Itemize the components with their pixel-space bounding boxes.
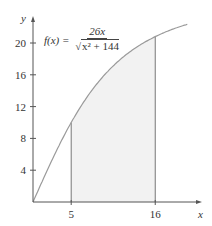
- y-tick-label: 16: [15, 69, 27, 81]
- formula-radicand: x² + 144: [81, 39, 119, 52]
- y-axis-arrow-icon: [31, 16, 35, 22]
- function-formula: f(x) = 26x √x² + 144: [44, 26, 119, 53]
- x-axis-label: x: [197, 208, 203, 220]
- x-ticks: 516: [68, 200, 161, 220]
- y-tick-label: 8: [21, 132, 27, 144]
- formula-numerator: 26x: [87, 26, 107, 39]
- x-axis-arrow-icon: [196, 200, 202, 204]
- x-tick-label: 5: [68, 208, 74, 220]
- y-tick-label: 20: [15, 37, 27, 49]
- formula-fraction: 26x √x² + 144: [75, 26, 119, 53]
- formula-lhs: f(x) =: [44, 34, 69, 46]
- shaded-area: [71, 37, 155, 202]
- x-tick-label: 16: [150, 208, 162, 220]
- formula-denominator: √x² + 144: [75, 39, 119, 53]
- y-tick-label: 4: [21, 164, 27, 176]
- y-axis-label: y: [20, 12, 26, 24]
- y-tick-label: 12: [15, 101, 26, 113]
